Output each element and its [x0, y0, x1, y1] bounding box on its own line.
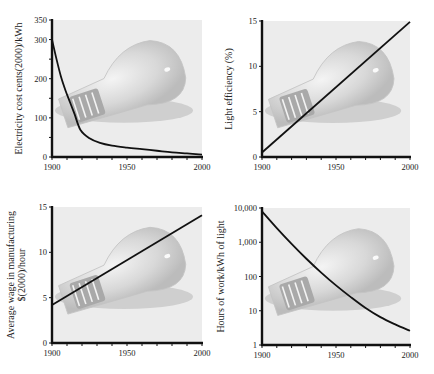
y-axis-title: Hours of work/kWh of light: [215, 220, 226, 332]
y-tick-label: 15: [249, 16, 258, 26]
y-tick-label: 10: [249, 61, 258, 71]
y-tick-label: 100: [34, 113, 47, 123]
y-tick-label: 5: [43, 293, 47, 303]
y-tick-label: 5: [253, 107, 257, 117]
x-tick-label: 2000: [194, 348, 211, 358]
y-tick-label: 1: [253, 340, 257, 350]
y-tick-label: 200: [34, 74, 47, 84]
y-tick-label: 10,000: [234, 203, 257, 213]
chart-panel-electricity-cost: 1900195020000100200300350Electricity cos…: [13, 15, 211, 172]
chart-panel-average-wage: 190019502000051015Average wage in manufa…: [5, 202, 211, 358]
y-axis-title: Electricity cost cents(2000)/kWh: [13, 22, 25, 154]
x-tick-label: 1900: [44, 162, 61, 172]
y-axis-title: Average wage in manufacturing: [5, 211, 16, 339]
y-tick-label: 1,000: [238, 237, 257, 247]
x-tick-label: 1900: [44, 348, 61, 358]
x-tick-label: 2000: [194, 162, 211, 172]
light-bulb-photo: [260, 208, 410, 345]
y-tick-label: 10: [249, 306, 258, 316]
x-tick-label: 1950: [328, 162, 345, 172]
x-tick-label: 1900: [254, 350, 271, 360]
y-axis-title: $(2000)/hour: [16, 248, 28, 301]
y-axis-title: Light efficiency (%): [223, 48, 235, 129]
light-bulb-photo: [50, 20, 202, 157]
x-tick-label: 1950: [119, 162, 136, 172]
y-tick-label: 100: [244, 272, 257, 282]
y-tick-label: 0: [43, 152, 47, 162]
x-tick-label: 1950: [119, 348, 136, 358]
y-tick-label: 0: [253, 152, 257, 162]
figure: 1900195020000100200300350Electricity cos…: [0, 0, 434, 374]
y-tick-label: 350: [34, 15, 47, 25]
x-tick-label: 2000: [402, 350, 419, 360]
chart-panel-hours-of-work: 1900195020001101001,00010,000Hours of wo…: [215, 203, 419, 360]
light-bulb-photo: [50, 207, 202, 343]
chart-panel-light-efficiency: 190019502000051015Light efficiency (%): [223, 16, 419, 172]
y-tick-label: 15: [39, 202, 48, 212]
y-tick-label: 10: [39, 247, 48, 257]
x-tick-label: 1900: [254, 162, 271, 172]
y-tick-label: 0: [43, 338, 47, 348]
x-tick-label: 2000: [402, 162, 419, 172]
y-tick-label: 300: [34, 35, 47, 45]
x-tick-label: 1950: [328, 350, 345, 360]
